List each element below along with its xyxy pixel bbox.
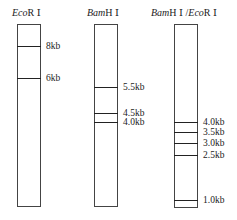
dna-band <box>94 113 118 114</box>
lane-title: BamH Ⅰ <box>87 7 119 18</box>
dna-band <box>174 155 198 156</box>
band-size-label: 3.0kb <box>203 138 224 148</box>
dna-band <box>94 87 118 88</box>
gel-lane <box>17 24 41 207</box>
dna-band <box>94 122 118 123</box>
gel-lane <box>94 24 118 207</box>
dna-band <box>174 122 198 123</box>
lane-title: BamH Ⅰ /EcoR Ⅰ <box>151 7 217 18</box>
band-size-label: 5.5kb <box>123 82 144 92</box>
band-size-label: 4.0kb <box>203 117 224 127</box>
dna-band <box>174 132 198 133</box>
dna-band <box>17 46 41 47</box>
band-size-label: 3.5kb <box>203 127 224 137</box>
band-size-label: 1.0kb <box>203 195 224 205</box>
dna-band <box>17 78 41 79</box>
gel-lane <box>174 24 198 208</box>
dna-band <box>174 200 198 201</box>
band-size-label: 4.0kb <box>123 117 144 127</box>
lane-title: EcoR Ⅰ <box>12 7 41 18</box>
dna-band <box>174 143 198 144</box>
band-size-label: 6kb <box>46 73 60 83</box>
band-size-label: 2.5kb <box>203 150 224 160</box>
band-size-label: 8kb <box>46 41 60 51</box>
